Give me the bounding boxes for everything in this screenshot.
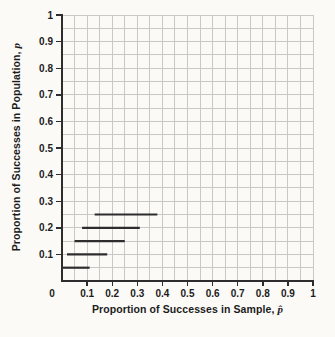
x-tick-label: 0.5 (181, 288, 195, 299)
x-tick-label: 0.4 (155, 288, 169, 299)
y-tick-label: 0.3 (39, 196, 53, 207)
x-axis-symbol: p̂ (277, 303, 283, 315)
x-tick-label: 0.2 (105, 288, 119, 299)
x-tick-labels: 00.10.20.30.40.50.60.70.80.91 (49, 288, 316, 299)
y-tick-label: 0.1 (39, 249, 53, 260)
y-tick-label: 0.2 (39, 222, 53, 233)
y-tick-labels: 0.10.20.30.40.50.60.70.80.91 (39, 10, 53, 260)
x-tick-label: 0.9 (281, 288, 295, 299)
y-axis-symbol: p (10, 43, 22, 49)
y-tick-label: 0.5 (39, 143, 53, 154)
x-tick-label: 0.7 (231, 288, 245, 299)
y-axis-title-text: Proportion of Successes in Population, (10, 51, 22, 251)
y-tick-label: 1 (47, 10, 53, 21)
tick-marks (56, 15, 313, 286)
x-tick-label: 0.1 (80, 288, 94, 299)
y-tick-label: 0.6 (39, 116, 53, 127)
x-tick-label: 1 (310, 288, 316, 299)
y-tick-label: 0.9 (39, 36, 53, 47)
x-tick-label: 0.8 (256, 288, 270, 299)
y-tick-label: 0.4 (39, 169, 53, 180)
y-axis-title: Proportion of Successes in Population, p (10, 12, 22, 282)
y-tick-label: 0.8 (39, 63, 53, 74)
confidence-belt-chart: 00.10.20.30.40.50.60.70.80.910.10.20.30.… (0, 0, 335, 337)
x-tick-label: 0.6 (206, 288, 220, 299)
chart-figure: 00.10.20.30.40.50.60.70.80.910.10.20.30.… (0, 0, 335, 337)
x-axis-title-text: Proportion of Successes in Sample, (92, 303, 275, 315)
x-tick-label: 0.3 (130, 288, 144, 299)
x-axis-title: Proportion of Successes in Sample, p̂ (62, 303, 313, 315)
y-tick-label: 0.7 (39, 89, 53, 100)
x-tick-label: 0 (49, 288, 55, 299)
